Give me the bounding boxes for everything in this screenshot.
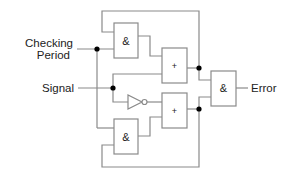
junction-or-top xyxy=(196,65,201,70)
signal-to-inverter xyxy=(113,88,128,102)
and-gate-final: & xyxy=(211,71,236,106)
and-top-to-or-top xyxy=(138,36,162,56)
or-top-symbol: + xyxy=(172,61,177,71)
or-bottom-symbol: + xyxy=(172,106,177,116)
junction-signal xyxy=(110,85,115,90)
and-bottom-to-or-bottom xyxy=(138,117,162,136)
and-gate-top: & xyxy=(114,23,138,58)
and-final-symbol: & xyxy=(220,82,228,94)
or-gate-top: + xyxy=(162,48,187,83)
inverter-gate xyxy=(128,95,147,109)
signal-label: Signal xyxy=(42,82,74,94)
error-label: Error xyxy=(251,82,277,94)
signal-to-or-top xyxy=(113,74,162,88)
checking-period-label-line2: Period xyxy=(37,49,70,61)
inverter-bubble-icon xyxy=(142,100,147,105)
checking-period-label-line1: Checking xyxy=(25,37,73,49)
and-top-symbol: & xyxy=(122,35,130,47)
junction-or-bottom xyxy=(196,106,201,111)
and-bottom-symbol: & xyxy=(122,131,130,143)
junction-checking-period xyxy=(94,46,99,51)
and-gate-bottom: & xyxy=(114,119,138,154)
or-gate-bottom: + xyxy=(162,93,187,128)
logic-circuit-diagram: & + + & & Checking Period Signal Error xyxy=(0,0,299,188)
